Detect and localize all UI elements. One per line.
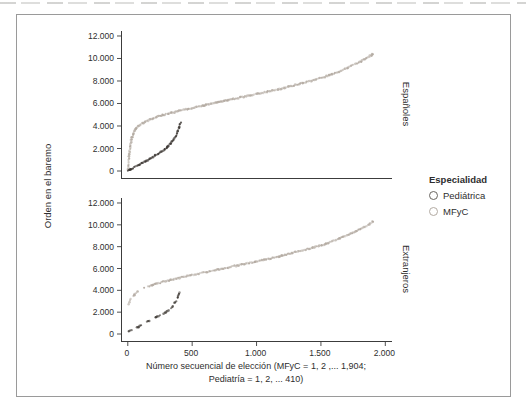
x-axis-title-line1: Número secuencial de elección (MFyC = 1,…	[101, 360, 411, 373]
y-tick-label: 8.000	[74, 76, 114, 86]
y-tick-label: 6.000	[74, 264, 114, 274]
y-tick-label: 6.000	[74, 98, 114, 108]
y-tick-label: 10.000	[74, 220, 114, 230]
y-tick-label: 4.000	[74, 285, 114, 295]
legend-item-pediatrica: Pediátrica	[429, 190, 509, 201]
figure-page: Orden en el baremo Españoles Extranjeros…	[0, 0, 526, 410]
figure-frame: Orden en el baremo Españoles Extranjeros…	[16, 14, 511, 397]
y-axis-title: Orden en el baremo	[42, 144, 53, 229]
legend-label-mfyc: MFyC	[443, 206, 468, 217]
facet-label-espanoles: Españoles	[401, 82, 412, 126]
x-tick-label: 1.500	[300, 348, 340, 358]
panel-espanoles	[121, 31, 392, 179]
y-tick-label: 0	[74, 329, 114, 339]
y-tick-label: 10.000	[74, 53, 114, 63]
y-tick-label: 8.000	[74, 242, 114, 252]
legend-title: Especialidad	[429, 174, 509, 185]
y-tick-label: 2.000	[74, 144, 114, 154]
legend-item-mfyc: MFyC	[429, 206, 509, 217]
y-tick-label: 2.000	[74, 307, 114, 317]
x-axis-title-line2: Pediatría = 1, 2, ... 410)	[101, 373, 411, 386]
x-tick-label: 2.000	[364, 348, 404, 358]
facet-label-extranjeros: Extranjeros	[401, 245, 412, 293]
legend: Especialidad Pediátrica MFyC	[429, 174, 509, 222]
y-tick-label: 12.000	[74, 198, 114, 208]
legend-label-pediatrica: Pediátrica	[443, 190, 485, 201]
y-tick-label: 4.000	[74, 121, 114, 131]
panel-extranjeros	[121, 198, 392, 342]
scan-artifact-line	[0, 2, 526, 4]
panel-extranjeros-plot	[122, 198, 392, 341]
x-tick-label: 0	[107, 348, 147, 358]
x-tick-label: 500	[171, 348, 211, 358]
y-tick-label: 12.000	[74, 31, 114, 41]
y-tick-label: 0	[74, 166, 114, 176]
x-axis-title: Número secuencial de elección (MFyC = 1,…	[101, 360, 411, 385]
panel-espanoles-plot	[122, 31, 392, 178]
pediatrica-marker-icon	[429, 191, 438, 200]
mfyc-marker-icon	[429, 207, 438, 216]
x-tick-label: 1.000	[236, 348, 276, 358]
